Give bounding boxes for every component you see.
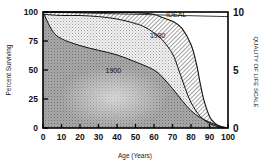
- curve-label-ideal: IDEAL: [166, 11, 186, 18]
- x-tick-label: 50: [131, 132, 141, 142]
- y-tick-label: 100: [24, 7, 38, 17]
- y2-tick-label: 10: [233, 7, 245, 18]
- x-tick-label: 10: [57, 132, 67, 142]
- y-tick-label: 75: [29, 36, 39, 46]
- x-tick-label: 20: [75, 132, 85, 142]
- x-tick-label: 90: [205, 132, 215, 142]
- x-tick-label: 80: [186, 132, 196, 142]
- x-tick-label: 0: [41, 132, 46, 142]
- survival-chart: 0102030405060708090100 0255075100 0510 A…: [0, 0, 270, 162]
- y-tick-label: 50: [29, 65, 39, 75]
- x-axis-label: Age (Years): [118, 152, 152, 160]
- x-tick-label: 60: [149, 132, 159, 142]
- y-tick-label: 0: [33, 123, 38, 133]
- x-tick-label: 30: [94, 132, 104, 142]
- y-tick-label: 25: [29, 94, 39, 104]
- plot-area: [43, 12, 228, 128]
- y2-tick-label: 0: [233, 123, 239, 134]
- x-tick-label: 40: [112, 132, 122, 142]
- curve-label-1980: 1980: [150, 32, 166, 39]
- curve-label-1900: 1900: [106, 67, 122, 74]
- y2-axis-label: QUALITY OF LIFE SCALE: [253, 36, 259, 107]
- y2-tick-label: 5: [233, 65, 239, 76]
- x-tick-label: 70: [168, 132, 178, 142]
- y-axis-right: 0510: [233, 7, 245, 134]
- y-axis-label: Percent Surviving: [5, 44, 13, 95]
